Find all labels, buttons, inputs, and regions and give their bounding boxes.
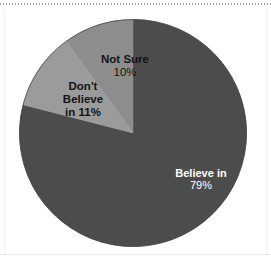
pie-graphic: Believe in 79% Not Sure 10% Don't Believ… — [19, 19, 247, 247]
pie-svg — [19, 19, 247, 247]
top-dotted-rule — [0, 3, 271, 5]
page-edge-right — [266, 10, 267, 255]
page-edge-left — [4, 10, 5, 255]
page-edge-bottom — [0, 254, 271, 255]
pie-chart-figure: Believe in 79% Not Sure 10% Don't Believ… — [0, 0, 271, 261]
